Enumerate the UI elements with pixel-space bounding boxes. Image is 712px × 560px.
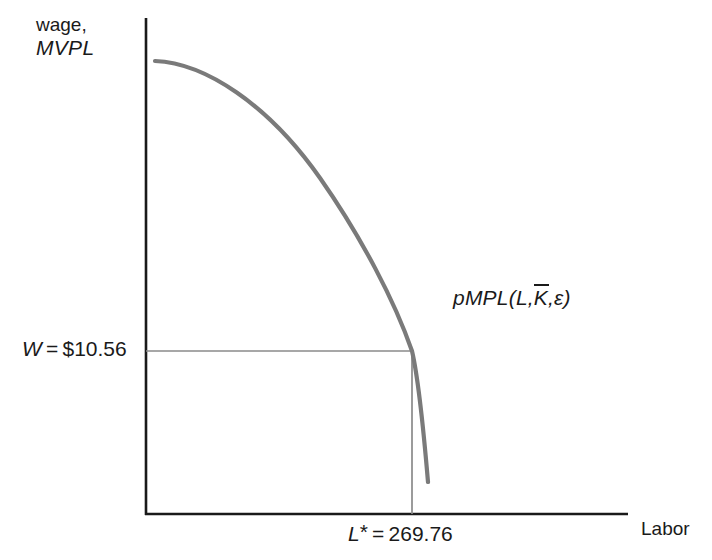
curve-label-labor-var: L	[516, 286, 528, 309]
curve-label-epsilon: ε	[554, 286, 563, 309]
y-axis-label: wage, MVPL	[36, 14, 94, 61]
economics-chart-mvpl	[0, 0, 712, 560]
chart-background	[0, 0, 712, 560]
wage-symbol: W	[22, 337, 42, 360]
curve-label-capital-var-bar: K	[534, 286, 548, 311]
curve-label-mpl: MPL	[465, 286, 509, 309]
x-axis-label: Labor	[641, 518, 690, 540]
curve-label-close-paren: )	[564, 286, 571, 309]
y-axis-label-line2: MVPL	[36, 36, 94, 61]
y-axis-label-line1: wage,	[36, 14, 87, 35]
curve-label-p: p	[453, 286, 465, 309]
lstar-symbol: L	[348, 522, 360, 545]
wage-equals-value: = $10.56	[42, 337, 127, 360]
lstar-asterisk: *	[360, 520, 368, 543]
labor-optimum-label: L* = 269.76	[348, 520, 453, 547]
pmpl-curve-label: pMPL(L,K,ε)	[453, 286, 571, 311]
curve-label-open-paren: (	[509, 286, 516, 309]
wage-value-label: W = $10.56	[22, 337, 127, 362]
lstar-equals-value: = 269.76	[368, 522, 453, 545]
